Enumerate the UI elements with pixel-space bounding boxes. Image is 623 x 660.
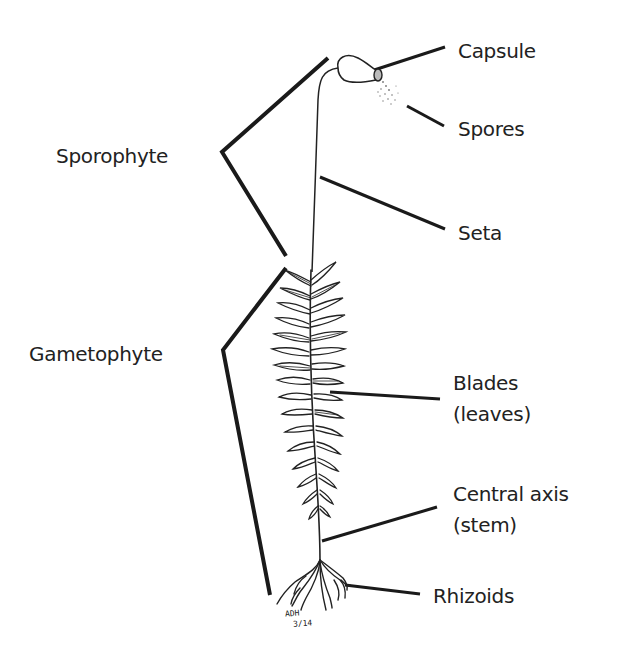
spores-label: Spores [458, 114, 524, 144]
rhizoids-pointer [345, 585, 420, 594]
central-axis-label-line2: (stem) [453, 510, 517, 540]
leafy-stem-drawing [272, 262, 346, 560]
seta-stalk [312, 68, 338, 272]
capsule-drawing [338, 56, 382, 83]
seta-label: Seta [458, 218, 502, 248]
blades-label-line2: (leaves) [453, 399, 531, 429]
blades-pointer [330, 392, 440, 399]
central-axis-pointer [322, 507, 437, 541]
blades-label-line1: Blades [453, 368, 518, 398]
sporophyte-bracket [222, 58, 328, 256]
spore-dots [377, 81, 398, 105]
spores-pointer [407, 106, 444, 126]
artist-signature-initials: ADH [285, 609, 300, 619]
seta-pointer [320, 177, 445, 229]
central-axis-label-line1: Central axis [453, 479, 569, 509]
moss-anatomy-diagram: Capsule Spores Sporophyte Seta Gametophy… [0, 0, 623, 660]
capsule-label: Capsule [458, 36, 536, 66]
artist-signature-date: 3/14 [293, 618, 313, 628]
rhizoids-label: Rhizoids [433, 581, 514, 611]
gametophyte-label: Gametophyte [29, 339, 163, 369]
sporophyte-label: Sporophyte [56, 141, 168, 171]
capsule-pointer [368, 47, 445, 72]
gametophyte-bracket [223, 268, 286, 595]
rhizoids-drawing [277, 560, 350, 610]
